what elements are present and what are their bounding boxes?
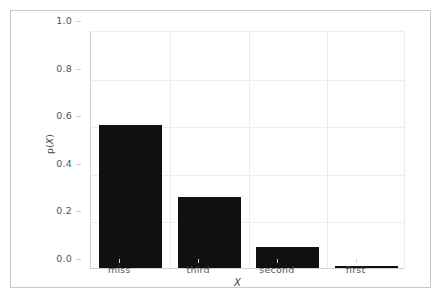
- x-tick-label: miss: [80, 265, 159, 275]
- gridline-vertical: [170, 32, 171, 268]
- y-tick-mark: [76, 164, 81, 165]
- figure-canvas: 0.00.20.40.60.81.0 p(X) missthirdsecondf…: [0, 0, 443, 299]
- gridline-vertical: [327, 32, 328, 268]
- x-tick-mark: [198, 259, 199, 263]
- y-tick-label: 0.8: [2, 64, 72, 74]
- gridline-vertical: [249, 32, 250, 268]
- bar[interactable]: [99, 125, 162, 268]
- y-axis-label-variable: X: [44, 138, 55, 145]
- x-tick-mark: [119, 259, 120, 263]
- y-tick-label: 0.6: [2, 111, 72, 121]
- y-axis-label: p(X): [45, 134, 55, 154]
- y-axis-label-prefix: p(: [44, 144, 55, 154]
- plot-area: [90, 31, 405, 269]
- x-axis-label-text: X: [234, 277, 241, 288]
- y-tick-label: 1.0: [2, 16, 72, 26]
- x-tick-label: third: [159, 265, 238, 275]
- y-axis-label-suffix: ): [44, 134, 55, 138]
- y-tick-mark: [76, 211, 81, 212]
- y-tick-mark: [76, 116, 81, 117]
- y-tick-label: 0.2: [2, 206, 72, 216]
- gridline-horizontal: [91, 80, 404, 81]
- bar[interactable]: [178, 197, 241, 268]
- y-tick-label: 0.4: [2, 159, 72, 169]
- x-axis-label: X: [80, 278, 395, 288]
- figure-frame: 0.00.20.40.60.81.0 p(X) missthirdsecondf…: [10, 10, 431, 288]
- x-tick-mark: [277, 259, 278, 263]
- y-tick-mark: [76, 69, 81, 70]
- y-tick-mark: [76, 21, 81, 22]
- x-tick-label: first: [316, 265, 395, 275]
- x-tick-label: second: [238, 265, 317, 275]
- y-tick-mark: [76, 259, 81, 260]
- x-tick-mark: [356, 259, 357, 263]
- y-tick-label: 0.0: [2, 254, 72, 264]
